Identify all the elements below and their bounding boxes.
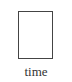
x-axis-label: time [0,64,72,80]
plot-frame [18,11,53,59]
